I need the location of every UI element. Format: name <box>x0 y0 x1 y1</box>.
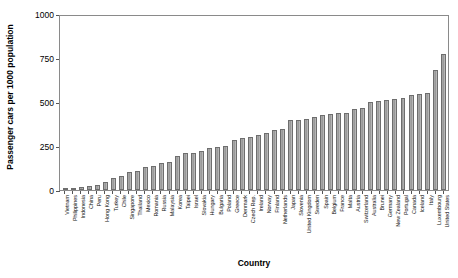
x-tick-mark <box>411 191 412 194</box>
x-label-slot: Japan <box>286 195 294 255</box>
x-label-slot: Slovakia <box>197 195 205 255</box>
x-tick-mark <box>354 191 355 194</box>
bar <box>215 147 220 191</box>
bar-series <box>60 16 448 190</box>
y-tick-label: 0 <box>18 186 54 196</box>
x-tick-mark <box>72 191 73 194</box>
x-label-slot: Peru <box>92 195 100 255</box>
x-tick-mark <box>427 191 428 194</box>
x-label-slot: United States <box>440 195 448 255</box>
bar-slot <box>351 16 359 190</box>
y-tick-label: 750 <box>18 54 54 64</box>
x-label-slot: Norway <box>262 195 270 255</box>
x-label-slot: Spain <box>319 195 327 255</box>
bar <box>272 130 277 190</box>
x-tick-mark <box>169 191 170 194</box>
bar <box>320 115 325 190</box>
bar <box>256 135 261 190</box>
x-label-slot: China <box>84 195 92 255</box>
bar <box>376 101 381 190</box>
bar <box>223 146 228 190</box>
bar-slot <box>198 16 206 190</box>
bar-slot <box>343 16 351 190</box>
x-tick-mark <box>233 191 234 194</box>
bar <box>240 138 245 190</box>
bar-slot <box>399 16 407 190</box>
bar <box>127 172 132 190</box>
x-tick-mark <box>257 191 258 194</box>
bar-slot <box>270 16 278 190</box>
bar <box>409 95 414 190</box>
x-label-slot: Belgium <box>327 195 335 255</box>
x-label-slot: Malta <box>343 195 351 255</box>
bar <box>63 188 68 190</box>
x-tick-mark <box>330 191 331 194</box>
bar <box>135 171 140 190</box>
bar-slot <box>310 16 318 190</box>
x-label-slot: Thailand <box>133 195 141 255</box>
x-label-slot: Israel <box>189 195 197 255</box>
x-label-slot: United Kingdom <box>302 195 310 255</box>
x-tick-mark <box>435 191 436 194</box>
x-tick-mark <box>193 191 194 194</box>
x-tick-mark <box>177 191 178 194</box>
bar-slot <box>335 16 343 190</box>
y-tick-label: 1000 <box>18 10 54 20</box>
bar-slot <box>69 16 77 190</box>
x-label-slot: Iceland <box>415 195 423 255</box>
x-tick-label: United States <box>444 195 450 227</box>
x-label-slot: Poland <box>222 195 230 255</box>
bar-slot <box>141 16 149 190</box>
bar <box>280 129 285 190</box>
bar <box>87 186 92 190</box>
bar <box>95 185 100 190</box>
bar-slot <box>367 16 375 190</box>
x-label-slot: Mexico <box>141 195 149 255</box>
x-label-slot: Hungary <box>205 195 213 255</box>
x-tick-mark <box>64 191 65 194</box>
bar-slot <box>327 16 335 190</box>
bar <box>111 178 116 190</box>
bar <box>433 70 438 190</box>
x-label-slot: Austria <box>351 195 359 255</box>
bar-slot <box>150 16 158 190</box>
x-tick-mark <box>201 191 202 194</box>
x-tick-mark <box>88 191 89 194</box>
bar-slot <box>93 16 101 190</box>
bar-slot <box>302 16 310 190</box>
x-label-slot: Slovenia <box>294 195 302 255</box>
x-tick-mark <box>387 191 388 194</box>
x-label-slot: Germany <box>383 195 391 255</box>
x-tick-mark <box>136 191 137 194</box>
x-tick-mark <box>120 191 121 194</box>
bar-slot <box>61 16 69 190</box>
bar-slot <box>77 16 85 190</box>
bar-slot <box>439 16 447 190</box>
x-tick-mark <box>80 191 81 194</box>
bar-slot <box>117 16 125 190</box>
bar <box>328 114 333 190</box>
bar-slot <box>262 16 270 190</box>
x-tick-mark <box>338 191 339 194</box>
x-axis-tick-labels: VietnamPhilippinesIndonesiaChinaPeruHong… <box>59 195 449 255</box>
bar-slot <box>254 16 262 190</box>
bar-slot <box>238 16 246 190</box>
bar-slot <box>85 16 93 190</box>
x-label-slot: Australia <box>367 195 375 255</box>
bar-slot <box>125 16 133 190</box>
bar <box>159 163 164 190</box>
x-tick-mark <box>96 191 97 194</box>
y-tick-label: 250 <box>18 142 54 152</box>
bar <box>304 119 309 190</box>
bar-slot <box>431 16 439 190</box>
bar <box>344 113 349 190</box>
x-label-slot: Russia <box>157 195 165 255</box>
bar <box>71 188 76 190</box>
x-label-slot: Czech Rep. <box>246 195 254 255</box>
bar-slot <box>230 16 238 190</box>
bar <box>264 133 269 190</box>
y-axis-tick-labels: 02505007501000 <box>18 0 54 278</box>
x-tick-mark <box>322 191 323 194</box>
bar <box>183 153 188 190</box>
bar <box>417 94 422 190</box>
